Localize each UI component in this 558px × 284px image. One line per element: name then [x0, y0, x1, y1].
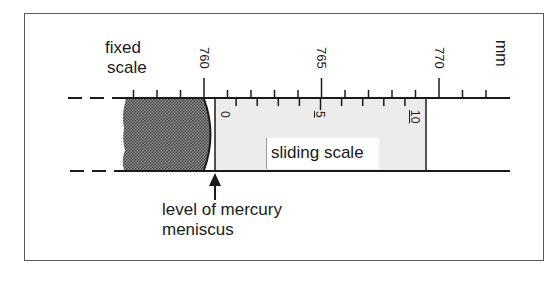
fixed-scale-tick-label-765: 765: [314, 47, 329, 69]
fixed-scale-label-line1: fixed: [105, 38, 141, 58]
unit-label: mm: [492, 40, 510, 67]
meniscus-arrow-icon: [209, 173, 221, 200]
meniscus-label-line2: meniscus: [162, 220, 234, 240]
mercury-column: [123, 99, 211, 170]
sliding-scale-tick-label-10: 10: [408, 110, 422, 123]
fixed-scale-ticks: [134, 78, 487, 98]
fixed-scale-tick-label-760: 760: [197, 47, 212, 69]
meniscus-label-line1: level of mercury: [162, 200, 282, 220]
fixed-scale-tick-label-770: 770: [432, 47, 447, 69]
sliding-scale-label: sliding scale: [271, 143, 364, 163]
sliding-scale-tick-label-0: 0: [218, 111, 232, 118]
sliding-scale-tick-label-5: 5: [313, 111, 327, 118]
fixed-scale-label-line2: scale: [107, 58, 147, 78]
